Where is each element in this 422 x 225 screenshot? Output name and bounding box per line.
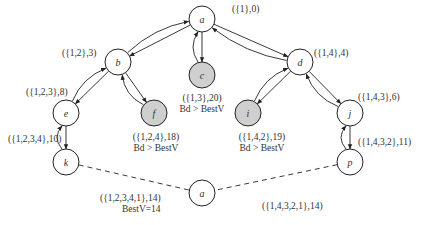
- backtrack-edge: [128, 21, 189, 52]
- backtrack-edge: [254, 68, 287, 101]
- backtrack-edge: [122, 75, 143, 105]
- dashed-edge: [215, 165, 338, 191]
- tree-edge: [130, 25, 191, 56]
- node-annotation: ({1,4,3,2},11): [358, 137, 411, 148]
- node-label: a: [200, 14, 205, 25]
- node-annotation: ({1,2,3,4},10): [8, 134, 61, 145]
- node-label: a: [200, 188, 205, 199]
- node-label: e: [64, 108, 69, 119]
- node-annotation: ({1,2,4},18): [133, 132, 179, 143]
- dashed-edge: [79, 165, 190, 190]
- node-label: p: [347, 157, 353, 168]
- leaf-annotation: BestV=14: [122, 204, 161, 214]
- backtrack-edge: [341, 126, 346, 149]
- node-annotation: ({1,4,3},6): [358, 92, 400, 103]
- node-label: k: [64, 157, 69, 168]
- node-label: c: [200, 70, 205, 81]
- node-annotation: ({1},0): [232, 4, 259, 15]
- backtrack-edge: [212, 28, 286, 61]
- search-tree-diagram: abcdefijkpa ({1},0)({1,2},3)({1,3},20)Bd…: [0, 0, 422, 225]
- backtrack-edge: [72, 68, 105, 101]
- tree-edge: [125, 73, 146, 103]
- node-annotation: ({1,4},4): [314, 48, 348, 59]
- node-label: b: [116, 57, 121, 68]
- backtrack-edge: [306, 74, 338, 106]
- node-annotation: Bd > BestV: [180, 104, 225, 114]
- node-annotation: ({1,2},3): [62, 48, 96, 59]
- node-annotation: ({1,3},20): [182, 93, 221, 104]
- tree-edge: [214, 24, 288, 57]
- backtrack-edge: [193, 32, 198, 62]
- node-annotation: ({1,2,3},8): [26, 87, 68, 98]
- node-annotation: Bd > BestV: [134, 143, 179, 153]
- leaf-annotation: ({1,2,3,4,1},14): [100, 193, 161, 204]
- node-annotation: Bd > BestV: [240, 143, 285, 153]
- node-label: i: [247, 108, 250, 119]
- leaf-annotation: ({1,4,3,2,1},14): [262, 201, 323, 212]
- node-annotation: ({1,4,2},19): [239, 132, 285, 143]
